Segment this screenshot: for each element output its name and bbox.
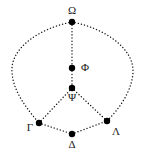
edge-delta-lambda xyxy=(72,121,107,134)
edge-group xyxy=(12,22,133,134)
edge-gamma-delta xyxy=(39,123,72,134)
diagram-svg xyxy=(0,0,147,159)
node-label-psi: Ψ xyxy=(66,92,78,103)
node-label-omega: Ω xyxy=(66,5,78,16)
node-group xyxy=(36,19,110,137)
diagram-canvas: Ω Φ Ψ Γ Λ Δ xyxy=(0,0,147,159)
edge-omega-gamma xyxy=(12,22,72,123)
node-omega[interactable] xyxy=(69,19,75,25)
node-label-delta: Δ xyxy=(66,139,78,150)
node-delta[interactable] xyxy=(69,131,75,137)
node-lambda[interactable] xyxy=(104,118,110,124)
node-gamma[interactable] xyxy=(36,120,42,126)
node-label-phi: Φ xyxy=(79,62,91,73)
node-phi[interactable] xyxy=(69,65,75,71)
node-label-gamma: Γ xyxy=(24,122,36,133)
node-label-lambda: Λ xyxy=(110,126,122,137)
